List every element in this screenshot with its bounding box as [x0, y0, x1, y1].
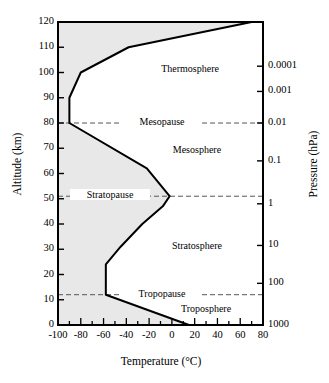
boundary-label-tropopause: Tropopause [122, 288, 202, 299]
y-axis-tick-label: 20 [20, 268, 54, 279]
layer-label-thermosphere: Thermosphere [145, 63, 235, 74]
pressure-axis-tick-label: 0.001 [268, 84, 292, 95]
x-axis-tick-label: 80 [243, 329, 283, 340]
y-axis-tick-label: 120 [20, 15, 54, 26]
y-axis-tick-label: 0 [20, 318, 54, 329]
pressure-axis-tick-label: 100 [268, 276, 284, 287]
y-axis-tick-label: 80 [20, 116, 54, 127]
layer-label-stratosphere: Stratosphere [152, 240, 242, 251]
y-axis-tick-label: 10 [20, 293, 54, 304]
boundary-label-stratopause: Stratopause [70, 189, 150, 200]
y-axis-tick-label: 100 [20, 66, 54, 77]
pressure-axis-tick-label: 0.01 [268, 116, 286, 127]
atmospheric-temperature-profile-chart: Altitude (km) Pressure (hPa) Temperature… [0, 0, 329, 383]
pressure-axis-tick-label: 1000 [268, 318, 289, 329]
pressure-axis-tick-label: 10 [268, 238, 279, 249]
y-axis-tick-label: 30 [20, 242, 54, 253]
y-axis-tick-label: 60 [20, 167, 54, 178]
pressure-axis-tick-label: 0.0001 [268, 59, 297, 70]
y-axis-tick-label: 110 [20, 40, 54, 51]
y-axis-right-title: Pressure (hPa) [307, 119, 319, 209]
boundary-label-mesopause: Mesopause [122, 116, 202, 127]
layer-label-mesosphere: Mesosphere [152, 144, 242, 155]
y-axis-tick-label: 70 [20, 141, 54, 152]
y-axis-tick-label: 50 [20, 192, 54, 203]
pressure-axis-tick-label: 0.1 [268, 154, 281, 165]
pressure-axis-tick-label: 1 [268, 197, 273, 208]
y-axis-tick-label: 90 [20, 91, 54, 102]
x-axis-title: Temperature (°C) [58, 355, 264, 367]
y-axis-tick-label: 40 [20, 217, 54, 228]
layer-label-troposphere: Troposphere [161, 303, 251, 314]
